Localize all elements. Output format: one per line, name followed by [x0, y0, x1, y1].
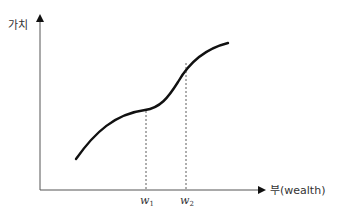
x-axis-label: 부(wealth) — [270, 184, 325, 197]
y-axis-label: 가치 — [8, 19, 28, 32]
w1-label: w1 — [140, 194, 154, 208]
w2-label: w2 — [180, 194, 194, 208]
value-function-diagram: 가치 부(wealth) w1 w2 — [0, 0, 337, 219]
value-curve — [76, 43, 228, 159]
